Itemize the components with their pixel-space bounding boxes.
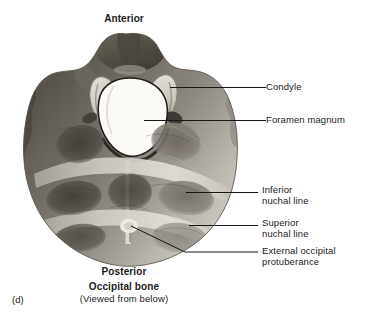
panel-letter: (d) xyxy=(12,294,24,305)
orientation-label-anterior: Anterior xyxy=(0,14,248,25)
callout-label-external-occipital-protuberance-line1: External occipital xyxy=(262,246,336,257)
callout-label-superior-nuchal-line-line1: Superior xyxy=(262,218,299,229)
callout-label-external-occipital-protuberance-line2: protuberance xyxy=(262,257,319,268)
callout-label-foramen-magnum: Foramen magnum xyxy=(266,115,345,126)
callout-label-inferior-nuchal-line-line2: nuchal line xyxy=(262,196,309,207)
callout-label-superior-nuchal-line-line2: nuchal line xyxy=(262,229,309,240)
callout-label-condyle: Condyle xyxy=(266,82,302,93)
figure-title: Occipital bone xyxy=(0,282,248,293)
leader-line-external-occipital-protuberance xyxy=(125,220,265,260)
figure-occipital-bone: Anterior xyxy=(0,0,372,312)
orientation-label-posterior: Posterior xyxy=(0,267,248,278)
callout-label-inferior-nuchal-line-line1: Inferior xyxy=(262,185,292,196)
figure-subtitle: (Viewed from below) xyxy=(0,294,248,305)
leader-line-condyle xyxy=(170,87,266,88)
leader-line-foramen-magnum xyxy=(144,120,266,121)
leader-line-inferior-nuchal-line xyxy=(186,192,258,193)
